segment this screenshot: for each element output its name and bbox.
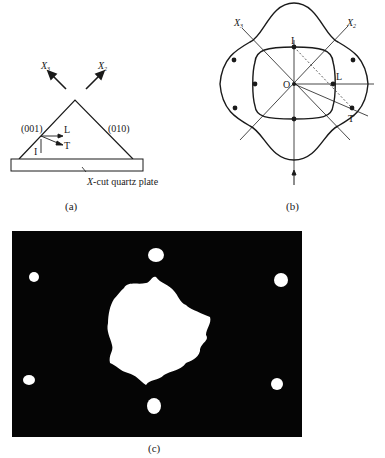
label-O: O	[283, 79, 290, 90]
axis-x2-label: X2	[97, 60, 107, 72]
label-I-b: I	[291, 35, 294, 46]
outer-upper-left-dot	[232, 58, 237, 63]
outer-lower-left-dot	[233, 106, 238, 111]
face-010-label: (010)	[108, 123, 130, 135]
spot-upper-right	[274, 273, 288, 287]
inner-bottom-dot	[292, 117, 297, 122]
axis-x2-arrow	[86, 71, 104, 89]
spot-lower-left	[23, 375, 35, 385]
spot-bottom	[147, 398, 161, 414]
label-L: L	[64, 124, 70, 135]
axis-x2-label-b: X2	[346, 17, 356, 29]
point-O	[292, 82, 296, 86]
axis-x3-label-b: X3	[233, 17, 243, 29]
plate-label: X-cut quartz plate	[86, 176, 159, 187]
quartz-plate	[11, 159, 143, 171]
panel-a-diagram: X3 X2 (001) (010) L T I X-cut quartz pla…	[0, 0, 190, 230]
spot-top	[148, 248, 164, 262]
face-001-label: (001)	[21, 123, 43, 135]
caption-a: (a)	[65, 200, 78, 213]
point-T	[350, 106, 355, 111]
caption-b: (b)	[286, 200, 299, 213]
incident-arrow	[292, 170, 296, 185]
spot-lower-right	[271, 378, 283, 390]
label-T: T	[64, 140, 70, 151]
axis-x3-label: X3	[40, 60, 50, 72]
spot-upper-left	[29, 272, 39, 282]
axis-x3-arrow	[48, 71, 66, 89]
label-I: I	[34, 146, 37, 157]
outer-upper-right-dot	[351, 58, 356, 63]
caption-c: (c)	[148, 442, 161, 455]
point-L	[331, 82, 336, 87]
panel-b-diagram: X3 X2 I O L T (b)	[190, 0, 385, 230]
inner-left-dot	[253, 82, 258, 87]
panel-c-photo: (c)	[0, 225, 385, 458]
dashed-construction-line	[294, 47, 352, 108]
label-L-b: L	[336, 71, 342, 82]
label-T-b: T	[348, 113, 354, 124]
